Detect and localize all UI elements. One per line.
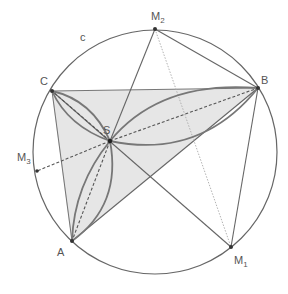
label-m1: M1 [234,254,248,269]
label-c: C [40,75,48,87]
point-b [256,86,260,90]
point-s [108,139,112,143]
label-b: B [261,74,268,86]
label-circle-c: c [80,31,86,43]
point-m3 [35,169,39,173]
point-m1 [229,245,233,249]
triangle-abc-shaded [52,88,258,241]
point-m2 [153,27,157,31]
label-a: A [57,246,65,258]
label-s: S [103,124,110,136]
point-c [50,89,54,93]
line-m2-b [155,29,258,88]
label-m2: M2 [151,10,165,25]
geometry-diagram: c C B A S M1 M2 M3 [0,0,288,294]
label-m3: M3 [17,151,31,166]
point-a [70,239,74,243]
